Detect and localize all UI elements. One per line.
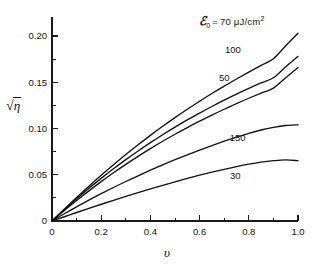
y-tick-label: 0.10 [29,123,48,134]
curve-label-30: 30 [230,170,241,181]
curves-group [52,33,298,221]
y-axis-radicand: η [13,97,21,113]
x-tick-label: 0.6 [193,226,206,237]
y-axis-title: √η [6,98,21,114]
x-tick-label: 0.8 [242,226,255,237]
ticks-group [52,36,298,221]
legend-header: ℰ0=70 μJ/cm2 [199,14,264,29]
x-axis-title: υ [164,245,170,261]
y-tick-label: 0.20 [29,30,48,41]
legend-value: 70 [220,16,231,27]
curve-label-150: 150 [230,132,246,143]
curve-50 [52,67,298,221]
x-tick-label: 0.2 [95,226,108,237]
curve-100 [52,56,298,221]
y-tick-label: 0.15 [29,77,48,88]
y-tick-label: 0 [42,215,47,226]
curve-label-50: 50 [219,72,230,83]
legend-energy-subscript: 0 [206,22,210,29]
curve-label-100: 100 [225,44,241,55]
x-tick-label: 0.4 [144,226,157,237]
x-tick-label: 1.0 [291,226,304,237]
y-tick-label: 0.05 [29,169,48,180]
legend-unit: μJ/cm [234,16,261,27]
curve-labels-group: 1005015030 [219,44,246,181]
x-tick-label: 0 [49,226,54,237]
legend-unit-exponent: 2 [260,15,264,22]
figure-canvas: 00.050.100.150.2000.20.40.60.81.0 100501… [0,0,311,267]
curve-150 [52,125,298,221]
chart-plot: 00.050.100.150.2000.20.40.60.81.0 100501… [0,0,311,267]
legend-equals: = [212,16,218,27]
